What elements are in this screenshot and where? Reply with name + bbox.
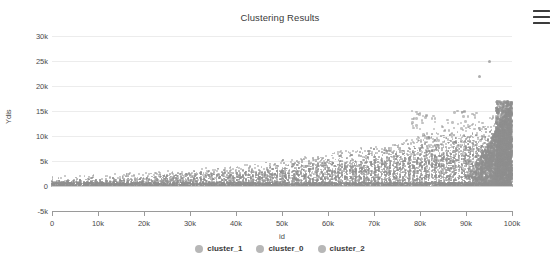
- legend-item-cluster-0[interactable]: cluster_0: [256, 244, 303, 253]
- data-point: [401, 179, 403, 181]
- data-point: [410, 181, 412, 183]
- data-point: [425, 178, 427, 180]
- data-point: [254, 167, 256, 169]
- data-point: [205, 167, 207, 169]
- plot-area[interactable]: [52, 36, 512, 211]
- data-point: [64, 175, 66, 177]
- x-axis-tick-label: 40k: [230, 219, 242, 228]
- data-point: [481, 128, 484, 131]
- data-point: [452, 175, 454, 177]
- data-point: [176, 180, 178, 182]
- data-point: [453, 127, 455, 129]
- data-point: [453, 141, 456, 144]
- data-point: [419, 153, 421, 155]
- data-point: [431, 163, 434, 166]
- data-point: [325, 179, 327, 181]
- x-axis-tick-label: 70k: [368, 219, 380, 228]
- data-point: [328, 173, 330, 175]
- legend-swatch-icon: [195, 245, 203, 253]
- data-point: [459, 170, 461, 172]
- data-point: [510, 110, 513, 113]
- data-point: [375, 171, 377, 173]
- y-axis-tick-label: 5k: [6, 157, 48, 166]
- data-point: [339, 155, 341, 157]
- data-point: [465, 130, 468, 133]
- legend-item-cluster-2[interactable]: cluster_2: [318, 244, 365, 253]
- data-point: [264, 171, 266, 173]
- data-point: [487, 165, 489, 167]
- data-point: [331, 181, 333, 183]
- menu-bar-2: [533, 16, 550, 18]
- data-point: [232, 168, 234, 170]
- data-point: [334, 152, 336, 154]
- data-point: [473, 128, 476, 131]
- data-point: [218, 177, 220, 179]
- data-point: [472, 158, 474, 160]
- hamburger-menu-icon[interactable]: [533, 10, 550, 24]
- data-point: [385, 175, 387, 177]
- data-point: [307, 176, 309, 178]
- legend: cluster_1 cluster_0 cluster_2: [0, 244, 560, 253]
- data-point: [501, 178, 504, 181]
- data-point: [93, 174, 95, 176]
- data-point: [415, 124, 418, 127]
- data-point: [350, 154, 352, 156]
- data-point: [497, 129, 500, 132]
- data-point: [428, 182, 430, 184]
- data-point: [424, 116, 427, 119]
- data-point: [356, 183, 358, 185]
- legend-item-cluster-1[interactable]: cluster_1: [195, 244, 242, 253]
- data-point: [442, 126, 445, 129]
- data-point: [417, 140, 420, 143]
- data-point: [421, 181, 423, 183]
- data-point: [488, 60, 491, 63]
- data-point: [474, 162, 477, 165]
- data-point: [455, 149, 458, 152]
- data-point: [183, 182, 185, 184]
- data-point: [378, 168, 380, 170]
- data-point: [254, 164, 256, 166]
- data-point: [300, 158, 302, 160]
- data-point: [499, 159, 502, 162]
- data-point: [439, 163, 442, 166]
- data-point: [318, 168, 320, 170]
- data-point: [298, 174, 300, 176]
- data-point: [205, 175, 207, 177]
- data-point: [474, 116, 477, 119]
- data-point: [150, 173, 152, 175]
- data-point: [155, 172, 157, 174]
- data-point: [419, 128, 422, 131]
- x-axis-tick-label: 20k: [138, 219, 150, 228]
- data-point: [217, 168, 219, 170]
- data-point: [494, 130, 497, 133]
- data-point: [481, 174, 483, 176]
- x-axis-tick-label: 30k: [184, 219, 196, 228]
- data-point: [374, 167, 376, 169]
- data-point: [455, 169, 457, 171]
- data-point: [361, 148, 363, 150]
- data-point: [473, 148, 475, 150]
- data-point: [293, 173, 295, 175]
- data-point: [275, 182, 277, 184]
- data-point: [84, 175, 86, 177]
- data-point: [380, 159, 382, 161]
- data-point: [367, 177, 369, 179]
- x-axis-tick-mark: [512, 211, 513, 216]
- data-point: [257, 165, 259, 167]
- data-point: [364, 169, 366, 171]
- data-point: [442, 152, 445, 155]
- data-point: [266, 169, 268, 171]
- data-point: [210, 174, 212, 176]
- data-point: [223, 182, 225, 184]
- data-point: [52, 176, 54, 178]
- data-point: [306, 165, 308, 167]
- legend-swatch-icon: [256, 245, 264, 253]
- data-point: [358, 154, 360, 156]
- data-point: [466, 165, 468, 167]
- chart-container: Clustering Results -5k05k10k15k20k25k30k…: [0, 0, 560, 267]
- data-point: [378, 173, 380, 175]
- data-point: [119, 179, 121, 181]
- data-point: [230, 181, 232, 183]
- data-point: [273, 164, 275, 166]
- x-axis-tick-label: 10k: [92, 219, 104, 228]
